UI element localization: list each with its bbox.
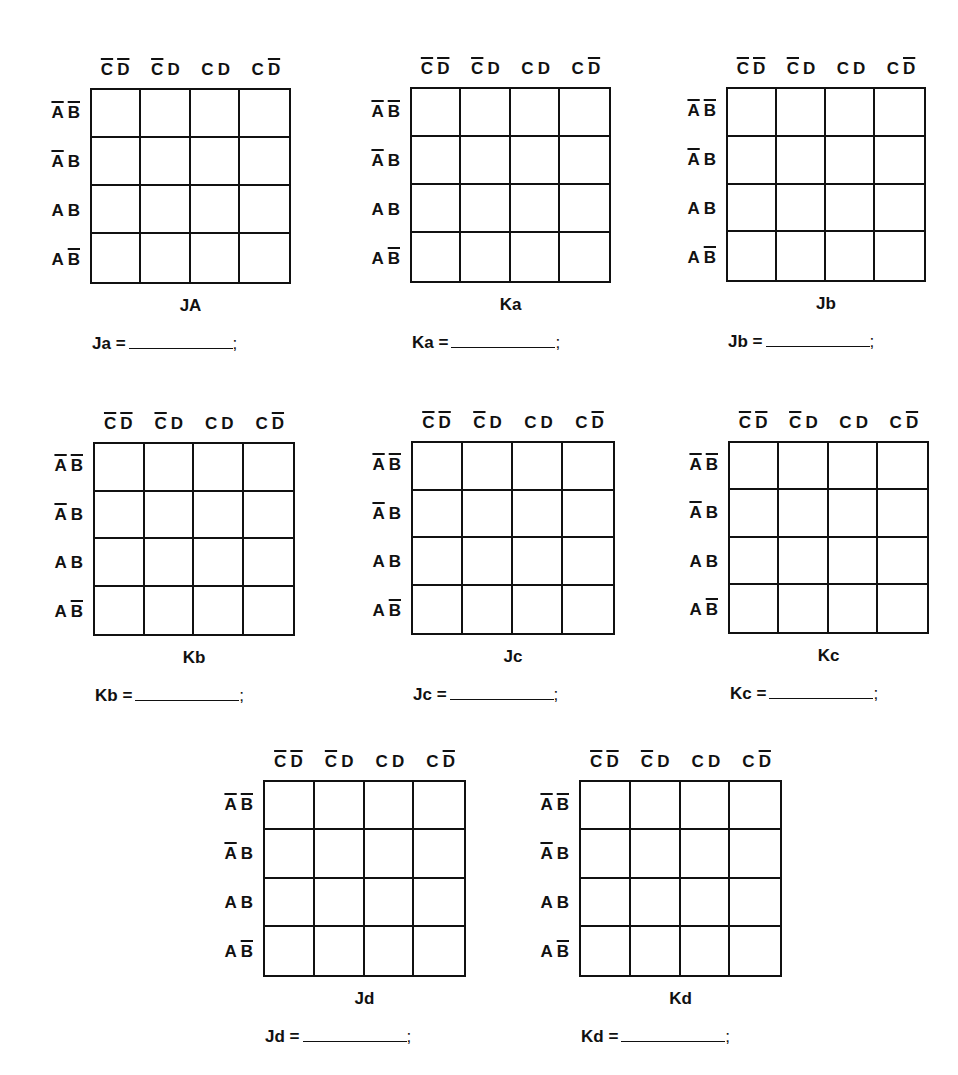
- kmap-cell[interactable]: [631, 830, 681, 878]
- equation-answer-blank[interactable]: [129, 334, 233, 349]
- kmap-cell[interactable]: [265, 782, 315, 830]
- kmap-cell[interactable]: [141, 90, 190, 138]
- kmap-cell[interactable]: [777, 89, 826, 137]
- kmap-cell[interactable]: [244, 587, 294, 635]
- equation-answer-blank[interactable]: [135, 686, 239, 701]
- kmap-cell[interactable]: [875, 185, 924, 233]
- kmap-cell[interactable]: [511, 233, 560, 281]
- kmap-cell[interactable]: [631, 782, 681, 830]
- kmap-cell[interactable]: [145, 444, 195, 492]
- kmap-cell[interactable]: [878, 538, 927, 585]
- kmap-cell[interactable]: [413, 538, 463, 586]
- kmap-cell[interactable]: [826, 185, 875, 233]
- kmap-cell[interactable]: [365, 782, 415, 830]
- kmap-cell[interactable]: [513, 491, 563, 539]
- kmap-cell[interactable]: [240, 90, 289, 138]
- kmap-cell[interactable]: [240, 138, 289, 186]
- kmap-cell[interactable]: [92, 186, 141, 234]
- kmap-cell[interactable]: [513, 538, 563, 586]
- kmap-cell[interactable]: [681, 830, 731, 878]
- kmap-cell[interactable]: [315, 879, 365, 927]
- kmap-cell[interactable]: [878, 585, 927, 632]
- kmap-cell[interactable]: [730, 585, 779, 632]
- kmap-cell[interactable]: [728, 89, 777, 137]
- kmap-cell[interactable]: [829, 490, 878, 537]
- kmap-cell[interactable]: [191, 90, 240, 138]
- kmap-cell[interactable]: [730, 443, 779, 490]
- kmap-cell[interactable]: [563, 491, 613, 539]
- kmap-cell[interactable]: [463, 586, 513, 634]
- kmap-cell[interactable]: [730, 927, 780, 975]
- equation-answer-blank[interactable]: [451, 333, 555, 348]
- kmap-cell[interactable]: [513, 443, 563, 491]
- kmap-cell[interactable]: [414, 879, 464, 927]
- kmap-cell[interactable]: [581, 782, 631, 830]
- kmap-cell[interactable]: [730, 490, 779, 537]
- kmap-cell[interactable]: [581, 927, 631, 975]
- kmap-cell[interactable]: [194, 539, 244, 587]
- kmap-cell[interactable]: [191, 186, 240, 234]
- kmap-cell[interactable]: [511, 89, 560, 137]
- kmap-cell[interactable]: [265, 830, 315, 878]
- kmap-cell[interactable]: [560, 137, 609, 185]
- kmap-cell[interactable]: [191, 234, 240, 282]
- equation-answer-blank[interactable]: [450, 685, 554, 700]
- kmap-cell[interactable]: [829, 443, 878, 490]
- kmap-cell[interactable]: [412, 89, 461, 137]
- kmap-cell[interactable]: [581, 879, 631, 927]
- kmap-cell[interactable]: [461, 89, 510, 137]
- kmap-cell[interactable]: [875, 89, 924, 137]
- kmap-cell[interactable]: [194, 444, 244, 492]
- kmap-cell[interactable]: [412, 185, 461, 233]
- kmap-cell[interactable]: [141, 234, 190, 282]
- kmap-cell[interactable]: [95, 492, 145, 540]
- kmap-cell[interactable]: [365, 830, 415, 878]
- kmap-cell[interactable]: [95, 539, 145, 587]
- kmap-cell[interactable]: [315, 927, 365, 975]
- kmap-cell[interactable]: [412, 233, 461, 281]
- kmap-cell[interactable]: [560, 233, 609, 281]
- kmap-cell[interactable]: [826, 137, 875, 185]
- kmap-cell[interactable]: [92, 138, 141, 186]
- kmap-cell[interactable]: [826, 232, 875, 280]
- equation-answer-blank[interactable]: [766, 332, 870, 347]
- kmap-cell[interactable]: [878, 490, 927, 537]
- kmap-cell[interactable]: [730, 782, 780, 830]
- kmap-cell[interactable]: [244, 539, 294, 587]
- kmap-cell[interactable]: [730, 879, 780, 927]
- kmap-cell[interactable]: [631, 879, 681, 927]
- kmap-cell[interactable]: [413, 491, 463, 539]
- kmap-cell[interactable]: [511, 137, 560, 185]
- kmap-cell[interactable]: [141, 186, 190, 234]
- kmap-cell[interactable]: [240, 186, 289, 234]
- kmap-cell[interactable]: [681, 879, 731, 927]
- kmap-cell[interactable]: [92, 234, 141, 282]
- kmap-cell[interactable]: [730, 538, 779, 585]
- kmap-cell[interactable]: [315, 830, 365, 878]
- kmap-cell[interactable]: [728, 232, 777, 280]
- kmap-cell[interactable]: [728, 137, 777, 185]
- kmap-cell[interactable]: [779, 490, 828, 537]
- kmap-cell[interactable]: [414, 782, 464, 830]
- kmap-cell[interactable]: [875, 137, 924, 185]
- kmap-cell[interactable]: [145, 492, 195, 540]
- kmap-cell[interactable]: [777, 137, 826, 185]
- equation-answer-blank[interactable]: [303, 1027, 407, 1042]
- kmap-cell[interactable]: [631, 927, 681, 975]
- kmap-cell[interactable]: [413, 586, 463, 634]
- kmap-cell[interactable]: [315, 782, 365, 830]
- kmap-cell[interactable]: [463, 538, 513, 586]
- kmap-cell[interactable]: [194, 492, 244, 540]
- kmap-cell[interactable]: [560, 185, 609, 233]
- kmap-cell[interactable]: [141, 138, 190, 186]
- kmap-cell[interactable]: [191, 138, 240, 186]
- kmap-cell[interactable]: [777, 185, 826, 233]
- kmap-cell[interactable]: [461, 185, 510, 233]
- kmap-cell[interactable]: [412, 137, 461, 185]
- kmap-cell[interactable]: [779, 585, 828, 632]
- kmap-cell[interactable]: [829, 538, 878, 585]
- kmap-cell[interactable]: [365, 927, 415, 975]
- kmap-cell[interactable]: [413, 443, 463, 491]
- kmap-cell[interactable]: [728, 185, 777, 233]
- kmap-cell[interactable]: [265, 927, 315, 975]
